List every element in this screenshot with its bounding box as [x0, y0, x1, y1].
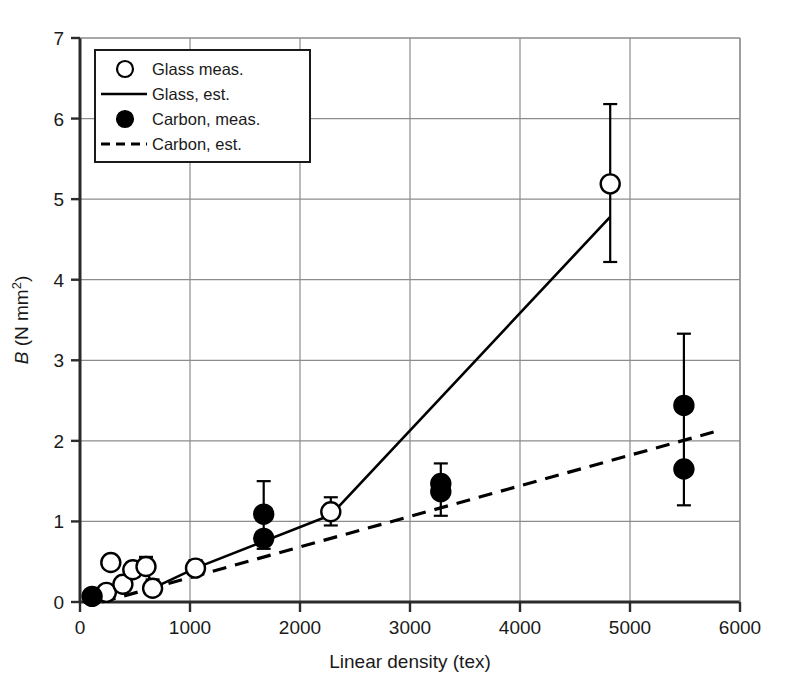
carbon-data-point — [431, 482, 450, 501]
x-axis-tick-label: 0 — [75, 617, 86, 638]
y-axis-tick-label: 6 — [53, 109, 64, 130]
y-axis-tick-label: 1 — [53, 511, 64, 532]
glass-data-point — [143, 579, 162, 598]
x-axis-tick-label: 3000 — [389, 617, 431, 638]
carbon-data-point — [83, 587, 102, 606]
carbon-data-point — [674, 396, 693, 415]
y-axis-title-symbol: B — [11, 351, 32, 364]
glass-data-point — [137, 557, 156, 576]
glass-data-point — [601, 174, 620, 193]
y-axis-title-close-paren: ) — [11, 276, 32, 282]
legend-item-label: Glass, est. — [152, 85, 230, 103]
x-axis-tick-label: 4000 — [499, 617, 541, 638]
x-axis-tick-label: 5000 — [609, 617, 651, 638]
carbon-data-point — [254, 505, 273, 524]
y-axis-tick-label: 7 — [53, 28, 64, 49]
legend-item-label: Carbon, meas. — [152, 110, 260, 128]
x-axis-tick-label: 2000 — [279, 617, 321, 638]
carbon-data-point — [254, 529, 273, 548]
glass-data-point — [186, 559, 205, 578]
legend: Glass meas.Glass, est.Carbon, meas.Carbo… — [95, 50, 310, 162]
y-axis-title-text: B (N mm2) — [9, 276, 32, 365]
x-axis-tick-label: 6000 — [719, 617, 761, 638]
chart-figure: 012345670100020003000400050006000Linear … — [0, 0, 785, 680]
y-axis-title-units: (N mm — [11, 289, 32, 351]
y-axis-title-exponent: 2 — [9, 282, 24, 289]
legend-marker-open-circle — [117, 61, 133, 77]
y-axis-title: B (N mm2) — [9, 276, 32, 365]
carbon-data-point — [674, 460, 693, 479]
y-axis-tick-label: 3 — [53, 350, 64, 371]
legend-marker-filled-circle — [117, 111, 133, 127]
y-axis-tick-label: 4 — [53, 270, 64, 291]
x-axis-title: Linear density (tex) — [329, 651, 491, 672]
chart-svg: 012345670100020003000400050006000Linear … — [0, 0, 785, 680]
glass-data-point — [321, 502, 340, 521]
x-axis-tick-label: 1000 — [169, 617, 211, 638]
legend-item-label: Glass meas. — [152, 60, 244, 78]
y-axis-tick-label: 0 — [53, 592, 64, 613]
glass-data-point — [101, 553, 120, 572]
legend-item-label: Carbon, est. — [152, 135, 242, 153]
y-axis-tick-label: 2 — [53, 431, 64, 452]
y-axis-tick-label: 5 — [53, 189, 64, 210]
